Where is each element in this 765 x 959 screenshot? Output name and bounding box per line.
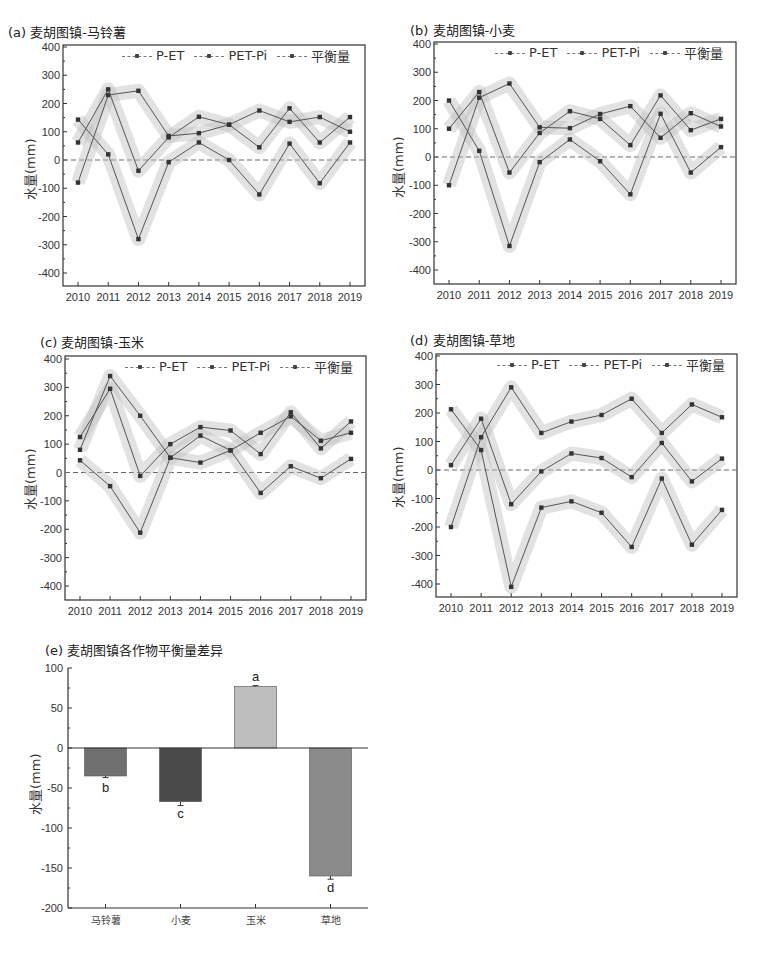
svg-text:-300: -300 — [40, 552, 62, 564]
legend-item-balance: 平衡量 — [650, 43, 723, 62]
svg-text:-100: -100 — [38, 182, 60, 194]
svg-text:400: 400 — [42, 41, 60, 53]
y-axis-label: 水量(mm) — [25, 754, 44, 815]
svg-text:100: 100 — [413, 123, 431, 135]
svg-text:-100: -100 — [409, 179, 431, 191]
svg-text:0: 0 — [54, 154, 60, 166]
panel-a-potato: (a) 麦胡图镇-马铃薯 水量(mm) 4003002001000-100-20… — [0, 0, 380, 310]
panel-title: (c) 麦胡图镇-玉米 — [40, 332, 144, 351]
svg-text:-400: -400 — [38, 267, 60, 279]
svg-text:-50: -50 — [47, 782, 63, 794]
line-marker-icon — [280, 362, 310, 372]
legend-item-balance: 平衡量 — [277, 46, 350, 65]
svg-text:2017: 2017 — [648, 289, 672, 301]
panel-title: (e) 麦胡图镇各作物平衡量差异 — [45, 640, 223, 659]
svg-text:2012: 2012 — [497, 289, 521, 301]
svg-text:2010: 2010 — [437, 289, 461, 301]
svg-text:300: 300 — [415, 379, 433, 391]
svg-text:2010: 2010 — [439, 602, 463, 614]
legend-item-p-et: P-ET — [495, 45, 557, 60]
legend: P-ET PET-Pi 平衡量 — [122, 46, 350, 65]
svg-text:2011: 2011 — [467, 289, 491, 301]
svg-text:2012: 2012 — [128, 605, 152, 617]
line-marker-icon — [194, 51, 224, 61]
legend-item-p-et: P-ET — [497, 357, 559, 372]
svg-text:2018: 2018 — [679, 289, 703, 301]
svg-text:200: 200 — [413, 95, 431, 107]
legend-item-balance: 平衡量 — [280, 357, 353, 376]
svg-text:400: 400 — [44, 353, 62, 365]
svg-text:300: 300 — [42, 69, 60, 81]
svg-text:2018: 2018 — [680, 602, 704, 614]
svg-text:-100: -100 — [41, 822, 63, 834]
svg-text:2016: 2016 — [248, 605, 272, 617]
svg-text:-300: -300 — [409, 236, 431, 248]
svg-text:2013: 2013 — [529, 602, 553, 614]
svg-text:2014: 2014 — [188, 605, 212, 617]
svg-text:2011: 2011 — [98, 605, 122, 617]
svg-text:2014: 2014 — [558, 289, 582, 301]
svg-text:0: 0 — [425, 151, 431, 163]
svg-text:2010: 2010 — [66, 291, 90, 303]
svg-text:300: 300 — [44, 381, 62, 393]
svg-text:玉米: 玉米 — [246, 914, 266, 926]
line-marker-icon — [569, 360, 599, 370]
svg-text:2017: 2017 — [650, 602, 674, 614]
svg-text:a: a — [252, 669, 260, 684]
svg-text:2018: 2018 — [308, 291, 332, 303]
svg-text:2019: 2019 — [338, 291, 362, 303]
legend-item-pet-pi: PET-Pi — [567, 45, 640, 60]
svg-text:-100: -100 — [40, 495, 62, 507]
svg-text:-300: -300 — [411, 550, 433, 562]
bar-chart: 100500-50-100-150-200b马铃薯c小麦a玉米d草地 — [0, 620, 380, 959]
svg-text:100: 100 — [415, 436, 433, 448]
svg-text:-400: -400 — [411, 578, 433, 590]
panel-d-grassland: (d) 麦胡图镇-草地 水量(mm) 4003002001000-100-200… — [385, 310, 765, 620]
svg-text:2019: 2019 — [339, 605, 363, 617]
y-axis-label: 水量(mm) — [388, 137, 407, 198]
legend: P-ET PET-Pi 平衡量 — [125, 357, 353, 376]
line-marker-icon — [652, 360, 682, 370]
svg-text:2015: 2015 — [588, 289, 612, 301]
svg-text:2011: 2011 — [469, 602, 493, 614]
line-marker-icon — [497, 360, 527, 370]
panel-title: (a) 麦胡图镇-马铃薯 — [8, 22, 126, 41]
svg-text:c: c — [177, 806, 184, 821]
svg-text:2017: 2017 — [277, 291, 301, 303]
svg-text:-400: -400 — [40, 580, 62, 592]
svg-text:200: 200 — [44, 410, 62, 422]
svg-text:-300: -300 — [38, 239, 60, 251]
panel-c-maize: (c) 麦胡图镇-玉米 水量(mm) 4003002001000-100-200… — [0, 310, 380, 620]
svg-text:2011: 2011 — [96, 291, 120, 303]
svg-text:400: 400 — [413, 38, 431, 50]
svg-text:0: 0 — [57, 742, 63, 754]
line-marker-icon — [197, 362, 227, 372]
legend-item-balance: 平衡量 — [652, 355, 725, 374]
svg-text:2013: 2013 — [158, 605, 182, 617]
svg-text:2019: 2019 — [710, 602, 734, 614]
svg-text:100: 100 — [45, 662, 63, 674]
svg-text:-200: -200 — [41, 902, 63, 914]
svg-text:2017: 2017 — [279, 605, 303, 617]
svg-text:0: 0 — [427, 464, 433, 476]
svg-text:2015: 2015 — [589, 602, 613, 614]
svg-text:-200: -200 — [40, 523, 62, 535]
svg-text:50: 50 — [51, 702, 63, 714]
svg-text:300: 300 — [413, 66, 431, 78]
legend: P-ET PET-Pi 平衡量 — [497, 355, 725, 374]
svg-text:b: b — [102, 780, 109, 795]
legend-item-pet-pi: PET-Pi — [197, 359, 270, 374]
svg-text:2015: 2015 — [217, 291, 241, 303]
svg-text:100: 100 — [44, 438, 62, 450]
line-marker-icon — [125, 362, 155, 372]
svg-text:2014: 2014 — [187, 291, 211, 303]
legend-item-pet-pi: PET-Pi — [194, 48, 267, 63]
panel-title: (b) 麦胡图镇-小麦 — [410, 20, 515, 39]
svg-text:2012: 2012 — [126, 291, 150, 303]
legend: P-ET PET-Pi 平衡量 — [495, 43, 723, 62]
svg-text:0: 0 — [56, 467, 62, 479]
legend-item-pet-pi: PET-Pi — [569, 357, 642, 372]
svg-text:-200: -200 — [38, 211, 60, 223]
svg-text:100: 100 — [42, 126, 60, 138]
line-marker-icon — [650, 48, 680, 58]
